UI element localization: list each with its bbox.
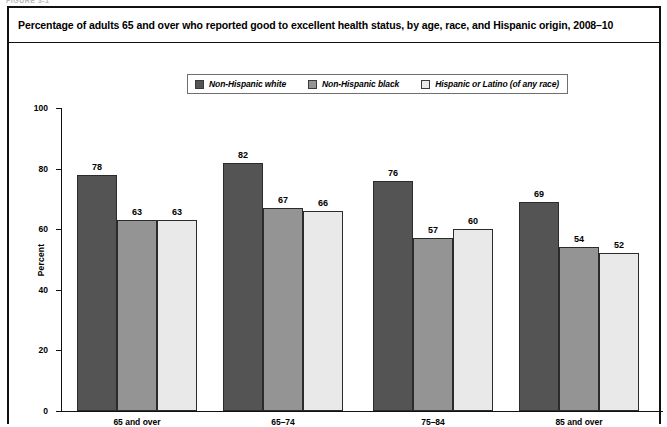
legend-swatch-icon	[421, 80, 430, 89]
bar-value-label: 52	[599, 240, 639, 250]
legend-item-label: Non-Hispanic black	[322, 79, 399, 89]
bar-group-bars: 695452	[519, 108, 639, 411]
bar-slot: 69	[519, 108, 559, 411]
y-axis-tick-label: 100	[34, 103, 48, 113]
bar-slot: 63	[157, 108, 197, 411]
y-axis-tick: 40	[56, 290, 61, 291]
bar[interactable]	[223, 163, 263, 411]
bar-value-label: 82	[223, 150, 263, 160]
x-axis-category-label: 65–74	[223, 417, 343, 427]
y-axis-line	[61, 108, 62, 411]
bar-value-label: 78	[77, 162, 117, 172]
bar-value-label: 60	[453, 216, 493, 226]
bar[interactable]	[303, 211, 343, 411]
y-axis-tick-label: 40	[39, 285, 48, 295]
bar[interactable]	[373, 181, 413, 411]
title-divider	[9, 42, 659, 43]
bar-group-bars: 786363	[77, 108, 197, 411]
bar[interactable]	[519, 202, 559, 411]
figure-page: FIGURE 3-1 Percentage of adults 65 and o…	[0, 0, 667, 427]
bar-group: 69545285 and over	[519, 108, 639, 411]
bar-value-label: 76	[373, 168, 413, 178]
bar-slot: 82	[223, 108, 263, 411]
chart-legend: Non-Hispanic white Non-Hispanic black Hi…	[187, 74, 568, 94]
bar[interactable]	[117, 220, 157, 411]
legend-item-hispanic-or-latino: Hispanic or Latino (of any race)	[421, 79, 559, 89]
legend-swatch-icon	[195, 80, 204, 89]
bar-value-label: 69	[519, 189, 559, 199]
chart-plot-area: Percent 020406080100 78636365 and over82…	[61, 108, 663, 411]
y-axis-tick: 80	[56, 169, 61, 170]
bar-value-label: 54	[559, 234, 599, 244]
bar-slot: 63	[117, 108, 157, 411]
bar-group: 76576075–84	[373, 108, 493, 411]
bar-group: 82676665–74	[223, 108, 343, 411]
figure-number-slug: FIGURE 3-1	[6, 0, 50, 4]
legend-item-non-hispanic-black: Non-Hispanic black	[308, 79, 399, 89]
bar-group-bars: 826766	[223, 108, 343, 411]
bar[interactable]	[77, 175, 117, 411]
bar-slot: 57	[413, 108, 453, 411]
x-axis-category-label: 85 and over	[519, 417, 639, 427]
bar[interactable]	[453, 229, 493, 411]
bar-group-bars: 765760	[373, 108, 493, 411]
x-axis-category-label: 75–84	[373, 417, 493, 427]
bar[interactable]	[263, 208, 303, 411]
legend-item-label: Hispanic or Latino (of any race)	[435, 79, 559, 89]
bar-slot: 60	[453, 108, 493, 411]
bar-value-label: 57	[413, 225, 453, 235]
bar[interactable]	[599, 253, 639, 411]
bar-slot: 54	[559, 108, 599, 411]
bar-group: 78636365 and over	[77, 108, 197, 411]
bar-slot: 52	[599, 108, 639, 411]
bar[interactable]	[559, 247, 599, 411]
y-axis-tick: 100	[56, 108, 61, 109]
bar-slot: 76	[373, 108, 413, 411]
bar-slot: 78	[77, 108, 117, 411]
y-axis-tick-label: 80	[39, 164, 48, 174]
figure-box: Percentage of adults 65 and over who rep…	[7, 6, 661, 424]
bar-value-label: 63	[157, 207, 197, 217]
legend-item-label: Non-Hispanic white	[209, 79, 286, 89]
y-axis-tick: 0	[56, 411, 61, 412]
bar[interactable]	[413, 238, 453, 411]
bar-value-label: 67	[263, 195, 303, 205]
x-axis-category-label: 65 and over	[77, 417, 197, 427]
bar-value-label: 66	[303, 198, 343, 208]
legend-item-non-hispanic-white: Non-Hispanic white	[195, 79, 286, 89]
legend-swatch-icon	[308, 80, 317, 89]
y-axis-title: Percent	[36, 243, 46, 276]
bar[interactable]	[157, 220, 197, 411]
bar-slot: 67	[263, 108, 303, 411]
y-axis-tick-label: 20	[39, 345, 48, 355]
page-title: Percentage of adults 65 and over who rep…	[18, 19, 651, 31]
y-axis-tick: 20	[56, 350, 61, 351]
bar-value-label: 63	[117, 207, 157, 217]
y-axis-tick: 60	[56, 229, 61, 230]
y-axis-tick-label: 0	[43, 406, 48, 416]
bar-slot: 66	[303, 108, 343, 411]
x-axis-line	[57, 411, 663, 412]
y-axis-tick-label: 60	[39, 224, 48, 234]
